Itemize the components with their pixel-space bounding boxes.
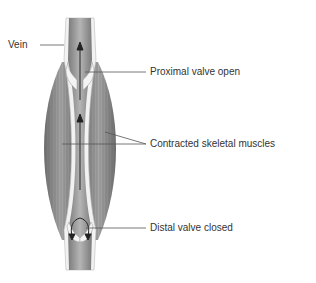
label-proximal-valve: Proximal valve open	[150, 66, 240, 77]
label-distal-valve: Distal valve closed	[150, 222, 233, 233]
label-contracted-muscles: Contracted skeletal muscles	[150, 138, 275, 149]
skeletal-muscle-pump-diagram: Vein Proximal valve open Contracted skel…	[0, 0, 316, 283]
label-vein: Vein	[8, 39, 27, 50]
